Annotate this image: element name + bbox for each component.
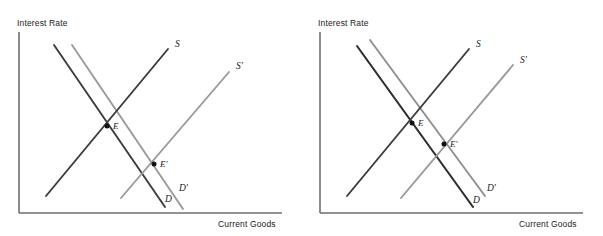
curve-label-supply: S bbox=[175, 39, 180, 49]
chart-panel-left: Interest Rate Current Goods S S' D D' E … bbox=[0, 0, 302, 236]
curve-demand-shifted bbox=[72, 45, 183, 209]
equilibrium-point-e-prime bbox=[152, 162, 157, 167]
curve-supply-shifted bbox=[121, 72, 229, 198]
curve-supply bbox=[347, 49, 469, 196]
equilibrium-point-e bbox=[105, 124, 110, 129]
chart-panel-right: Interest Rate Current Goods S S' D D' E … bbox=[301, 0, 603, 236]
x-axis-label: Current Goods bbox=[519, 219, 577, 229]
equilibrium-label-e: E bbox=[417, 118, 424, 128]
curve-label-demand: D bbox=[164, 194, 172, 204]
curve-supply bbox=[46, 49, 168, 196]
x-axis-label: Current Goods bbox=[218, 219, 276, 229]
figure-root: Interest Rate Current Goods S S' D D' E … bbox=[0, 0, 603, 236]
curve-demand bbox=[357, 46, 473, 207]
curve-label-supply-shifted: S' bbox=[520, 55, 528, 65]
equilibrium-point-e bbox=[410, 121, 415, 126]
curve-label-demand-shifted: D' bbox=[178, 183, 189, 193]
y-axis-label: Interest Rate bbox=[318, 18, 369, 28]
curve-label-supply: S bbox=[476, 39, 481, 49]
equilibrium-label-e: E bbox=[112, 121, 119, 131]
chart-svg-left: Interest Rate Current Goods S S' D D' E … bbox=[0, 0, 302, 236]
curve-label-demand: D bbox=[472, 195, 480, 205]
chart-svg-right: Interest Rate Current Goods S S' D D' E … bbox=[301, 0, 603, 236]
equilibrium-label-e-prime: E' bbox=[159, 159, 168, 169]
curve-label-supply-shifted: S' bbox=[236, 61, 244, 71]
equilibrium-point-e-prime bbox=[442, 142, 447, 147]
y-axis-label: Interest Rate bbox=[17, 18, 68, 28]
equilibrium-label-e-prime: E' bbox=[449, 139, 458, 149]
curve-label-demand-shifted: D' bbox=[486, 183, 497, 193]
